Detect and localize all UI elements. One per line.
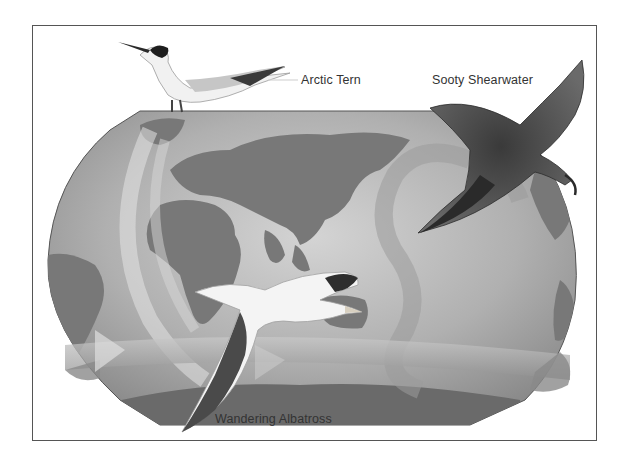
tern-beak: [118, 42, 150, 53]
migration-map: [0, 0, 631, 467]
label-sooty-shearwater: Sooty Shearwater: [432, 73, 533, 87]
arctic-tern-illustration: [118, 42, 298, 112]
label-arctic-tern: Arctic Tern: [301, 73, 361, 87]
label-wandering-albatross: Wandering Albatross: [215, 412, 332, 426]
